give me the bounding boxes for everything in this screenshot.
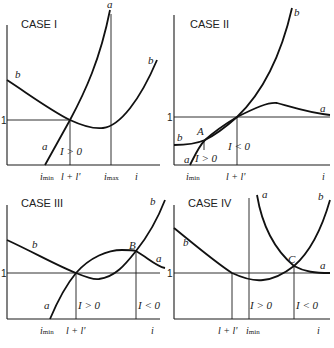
panel-title: CASE IV (188, 197, 232, 209)
point-B: B (129, 239, 136, 251)
panel-title: CASE III (21, 197, 63, 209)
tick-ll: l + l' (66, 325, 86, 336)
label-a-right: a (156, 252, 162, 264)
label-b-left: b (177, 131, 183, 143)
y-tick-one: 1 (167, 268, 173, 279)
label-a-bottom: a (42, 140, 48, 152)
tick-ll: l + l' (226, 171, 246, 182)
curve-b (174, 200, 330, 280)
label-a-right: a (320, 259, 326, 271)
point-C: C (288, 253, 296, 265)
panel-title: CASE II (190, 18, 229, 30)
label-b-top: b (294, 6, 300, 18)
y-tick-one: 1 (167, 112, 173, 123)
region-label-positive: I > 0 (194, 152, 218, 164)
tick-i: i (151, 325, 154, 336)
y-tick-one: 1 (1, 268, 7, 279)
four-case-diagram: CASE I 1 b a b a I > 0 imin l + l' imax … (0, 0, 334, 348)
panel-case-1: CASE I 1 b a b a I > 0 imin l + l' imax … (1, 0, 160, 182)
label-a-top: a (107, 0, 113, 10)
curve-b (7, 200, 165, 279)
panel-case-3: CASE III 1 b b a a B I > 0 I < 0 imin l … (1, 195, 165, 336)
label-b-top: b (150, 195, 156, 207)
panel-case-2: CASE II 1 b a b a A I > 0 I < 0 imin l +… (167, 6, 330, 182)
label-b-top: b (318, 190, 324, 202)
region-label: I > 0 (59, 145, 83, 157)
tick-imin: imin (186, 171, 200, 182)
region-label-negative: I < 0 (295, 299, 319, 311)
panel-title: CASE I (21, 18, 57, 30)
label-b-left: b (183, 236, 189, 248)
label-b-left: b (15, 68, 21, 80)
tick-i: i (322, 171, 325, 182)
point-A: A (196, 125, 204, 137)
panel-case-4: CASE IV 1 b a b a C I > 0 I < 0 l + l' i… (167, 188, 330, 336)
region-label-negative: I < 0 (137, 299, 161, 311)
region-label-positive: I > 0 (77, 299, 101, 311)
label-b-left: b (32, 238, 38, 250)
tick-ll: l + l' (61, 171, 81, 182)
tick-imin: imin (40, 171, 54, 182)
region-label-negative: I < 0 (227, 140, 251, 152)
tick-imax: imax (104, 171, 119, 182)
tick-ll: l + l' (218, 325, 238, 336)
label-a-top: a (262, 188, 268, 200)
tick-imin: imin (246, 325, 260, 336)
tick-imin: imin (40, 325, 54, 336)
label-a-bottom: a (184, 153, 190, 165)
tick-i: i (317, 325, 320, 336)
tick-i: i (135, 171, 138, 182)
label-b-right: b (148, 54, 154, 66)
label-a-bottom: a (44, 299, 50, 311)
label-a-right: a (320, 102, 326, 114)
y-tick-one: 1 (1, 115, 7, 126)
curve-a (45, 10, 110, 165)
region-label-positive: I > 0 (249, 299, 273, 311)
